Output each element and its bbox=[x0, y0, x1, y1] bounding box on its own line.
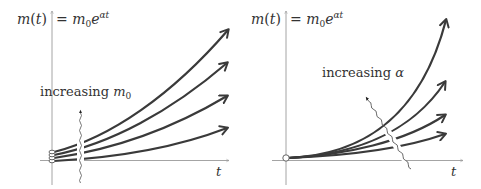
right-curves bbox=[288, 20, 446, 158]
left-y-label: m(t) bbox=[17, 11, 47, 27]
wavy-gap bbox=[77, 140, 84, 170]
initial-value-markers bbox=[49, 150, 55, 163]
right-panel: m(t) = m0eαt t increasing α bbox=[251, 10, 463, 185]
left-x-label: t bbox=[216, 164, 222, 179]
left-annotation: increasing m0 bbox=[40, 84, 131, 101]
left-equation: = m0eαt bbox=[56, 10, 110, 29]
initial-value-marker bbox=[283, 155, 289, 161]
left-panel: m(t) = m0eαt t increasing m0 bbox=[17, 10, 229, 185]
right-x-label: t bbox=[451, 164, 457, 179]
diagram-canvas: m(t) = m0eαt t increasing m0 m(t bbox=[0, 0, 481, 189]
right-equation: = m0eαt bbox=[290, 10, 344, 29]
right-annotation: increasing α bbox=[322, 65, 404, 80]
right-y-label: m(t) bbox=[251, 11, 281, 27]
curve-alpha-4 bbox=[288, 20, 446, 158]
